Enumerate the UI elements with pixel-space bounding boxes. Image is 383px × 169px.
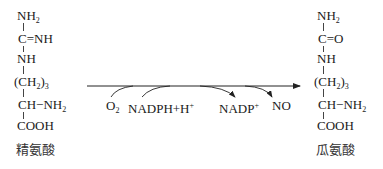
product-amino-group: NH2 — [317, 9, 340, 27]
bond — [323, 89, 324, 97]
cofactor-oxygen: O2 — [106, 99, 119, 117]
product-nadp: NADP+ — [219, 99, 259, 115]
product-alpha-carbon: CH−NH2 — [318, 98, 366, 116]
product-carboxyl-group: COOH — [317, 119, 354, 132]
product-name: 瓜氨酸 — [316, 143, 355, 156]
product-nh-group: NH — [317, 52, 336, 65]
cofactor-nadph: NADPH+H+ — [128, 99, 194, 115]
product-carbonyl-group: C=O — [318, 32, 343, 45]
bond — [323, 23, 324, 31]
bond — [323, 66, 324, 74]
product-nitric-oxide: NO — [272, 99, 291, 112]
product-methylene-chain: (CH2)3 — [314, 75, 349, 93]
